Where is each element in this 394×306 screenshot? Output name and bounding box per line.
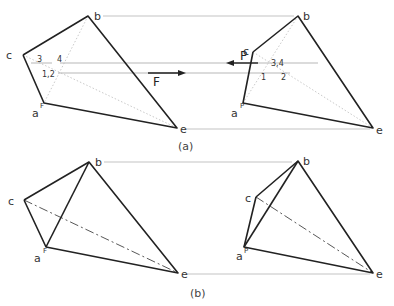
front-view-b: c b a F e [8, 156, 188, 281]
vertex-label-b: b [303, 10, 310, 23]
vertex-sup-a: P [244, 247, 248, 255]
outline-front-b [24, 162, 178, 273]
part-a: c b a F e 3 4 1,2 P F c b a P [6, 10, 383, 153]
vertex-sup-a: P [240, 102, 244, 110]
vertex-label-a: a [32, 107, 39, 120]
profile-view-b: c b a P e [236, 155, 383, 281]
hidden-edge-ce [23, 55, 177, 128]
part-b: c b a F e c b a P e (b) [8, 155, 383, 300]
arrow-label-F: F [153, 75, 160, 89]
outline-profile-a [243, 16, 373, 128]
vertex-label-b: b [95, 156, 102, 169]
vertex-label-c: c [243, 45, 249, 58]
profile-view-a: c b a P e 3,4 1 2 [231, 10, 383, 137]
caption-a: (a) [178, 140, 193, 153]
arrow-right-icon [178, 70, 186, 76]
vertex-label-e: e [180, 123, 187, 136]
vertex-label-a: a [236, 250, 243, 263]
vertex-label-c: c [8, 195, 14, 208]
vertex-sup-a: F [40, 102, 44, 110]
point-label-1: 1 [261, 73, 266, 82]
hidden-edge-ce [24, 200, 178, 273]
vertex-label-e: e [376, 268, 383, 281]
arrow-F: F [148, 70, 186, 89]
vertex-label-c: c [6, 49, 12, 62]
point-label-4: 4 [57, 55, 62, 64]
arrow-left-icon [226, 60, 234, 66]
point-label-3-4: 3,4 [271, 59, 284, 68]
point-label-1-2: 1,2 [42, 70, 55, 79]
point-label-3: 3 [37, 55, 42, 64]
point-label-2: 2 [281, 73, 286, 82]
vertex-label-a: a [231, 107, 238, 120]
vertex-label-a: a [34, 252, 41, 265]
edge-ba [244, 161, 298, 247]
vertex-label-c: c [245, 192, 251, 205]
vertex-label-b: b [94, 10, 101, 23]
vertex-sup-a: F [43, 247, 47, 255]
caption-b: (b) [190, 287, 206, 300]
vertex-label-b: b [303, 155, 310, 168]
vertex-label-e: e [376, 124, 383, 137]
descriptive-geometry-figure: c b a F e 3 4 1,2 P F c b a P [0, 0, 394, 306]
vertex-label-e: e [181, 268, 188, 281]
